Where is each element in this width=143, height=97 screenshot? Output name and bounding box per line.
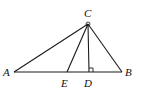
label-d: D <box>83 77 92 89</box>
triangle-diagram: A B C D E <box>0 0 143 97</box>
label-c: C <box>84 7 92 19</box>
right-angle-marker-icon <box>89 68 93 72</box>
segment-bc <box>88 24 122 72</box>
label-a: A <box>2 66 10 78</box>
label-e: E <box>60 77 68 89</box>
segment-cd <box>88 24 89 72</box>
label-b: B <box>125 66 132 78</box>
